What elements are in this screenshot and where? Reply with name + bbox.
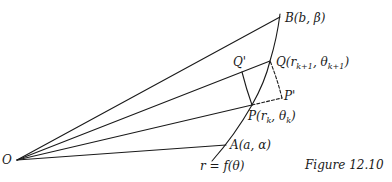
label-O: O xyxy=(2,154,12,166)
curve-label: r = f(θ) xyxy=(200,160,244,172)
dashed-PPprime xyxy=(252,98,282,105)
label-P: P(rk, θk) xyxy=(248,110,296,125)
label-Pprime: P' xyxy=(284,90,295,102)
label-A: A(a, α) xyxy=(230,139,271,151)
diagram-canvas xyxy=(0,0,392,182)
label-Q: Q(rk+1, θk+1) xyxy=(276,56,349,71)
arc-PQprime xyxy=(242,72,252,105)
label-B: B(b, β) xyxy=(285,12,325,24)
polar-area-diagram: O B(b, β) Q' Q(rk+1, θk+1) P' P(rk, θk) … xyxy=(0,0,392,182)
figure-caption: Figure 12.10 xyxy=(305,158,384,172)
label-Qprime: Q' xyxy=(233,56,246,68)
